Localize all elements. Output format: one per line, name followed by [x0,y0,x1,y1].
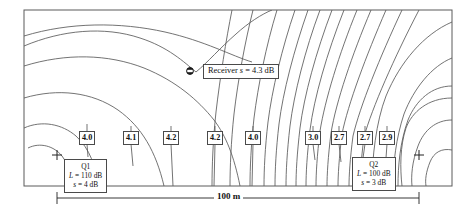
source-sigma-q1: s = 4 dB [69,180,102,189]
microphone-icon [186,68,194,75]
contour-label: 4.1 [123,131,139,145]
source-sigma-q2: s = 3 dB [357,178,391,187]
source-label-q2: Q2 L = 100 dB s = 3 dB [352,157,396,191]
sigma-value: = 4 dB [78,180,98,189]
source-level-q1: L = 110 dB [69,171,102,180]
level-value: = 110 dB [75,171,102,180]
contour-label: 3.0 [305,131,321,145]
source-label-q1: Q1 L = 110 dB s = 4 dB [64,159,107,193]
receiver-label-prefix: Receiver [208,66,238,75]
sigma-symbol: s [361,178,364,187]
contour-label: 4.2 [163,131,179,145]
contour-label: 4.0 [245,131,261,145]
sigma-value: = 3 dB [366,178,386,187]
receiver-label: Receiver s = 4.3 dB [203,64,279,79]
level-value: = 100 dB [363,169,391,178]
contour-label: 4.0 [79,131,95,145]
scale-bar-label: 100 m [214,192,243,201]
contour-label: 4.2 [207,131,223,145]
level-symbol: L [357,169,361,178]
source-name-q2: Q2 [357,160,391,169]
source-level-q2: L = 100 dB [357,169,391,178]
contour-label: 2.7 [357,131,373,145]
sigma-symbol: s [73,180,76,189]
contour-label: 2.9 [379,131,395,145]
contour-map-figure: 4.0 4.1 4.2 4.2 4.0 3.0 2.7 2.7 2.9 Rece… [0,0,476,215]
source-name-q1: Q1 [69,162,102,171]
level-symbol: L [69,171,73,180]
receiver-label-symbol: s [240,66,243,75]
contour-label: 2.7 [331,131,347,145]
receiver-label-value: = 4.3 dB [245,66,274,75]
